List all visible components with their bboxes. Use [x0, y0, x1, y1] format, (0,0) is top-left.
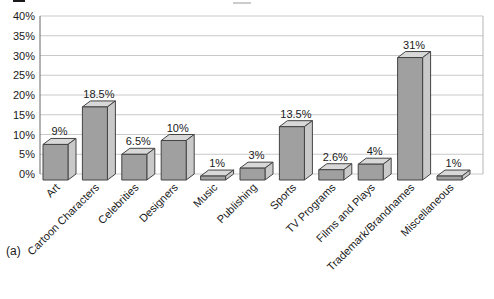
bar-value-label: 2.6%: [323, 151, 348, 163]
bar-side-face: [423, 52, 431, 180]
bar: [279, 127, 304, 180]
panel-label: (a): [6, 244, 21, 258]
x-axis-category-label: Celebrities: [95, 181, 141, 227]
y-axis-tick-label: 10%: [13, 129, 35, 141]
x-axis-category-label: Sports: [267, 181, 298, 212]
bar-chart: 0%5%10%15%20%25%30%35%40%9%Art18.5%Carto…: [0, 0, 494, 299]
y-axis-tick-label: 35%: [13, 30, 35, 42]
bar: [240, 168, 265, 180]
bar: [82, 107, 107, 180]
bar-value-label: 1%: [446, 157, 462, 169]
bar-side-face: [68, 138, 76, 180]
x-axis-category-label: Art: [43, 181, 61, 199]
bar: [358, 164, 383, 180]
bar-value-label: 18.5%: [83, 88, 114, 100]
bar-value-label: 4%: [367, 145, 383, 157]
x-axis-category-label: Music: [191, 181, 220, 210]
bar: [201, 176, 226, 180]
bar-value-label: 31%: [403, 39, 425, 51]
bar-side-face: [107, 101, 115, 180]
x-axis-category-label: Cartoon Characters: [25, 181, 102, 258]
bar: [437, 176, 462, 180]
bar-side-face: [186, 135, 194, 181]
bar: [161, 141, 186, 181]
bar: [319, 170, 344, 180]
y-axis-tick-label: 0%: [19, 168, 35, 180]
bar-value-label: 10%: [167, 122, 189, 134]
bar-side-face: [147, 148, 155, 180]
y-axis-tick-label: 30%: [13, 50, 35, 62]
bar-value-label: 1%: [209, 157, 225, 169]
x-axis-category-label: Publishing: [215, 181, 259, 225]
y-axis-tick-label: 40%: [13, 10, 35, 22]
figure-panel: 0%5%10%15%20%25%30%35%40%9%Art18.5%Carto…: [0, 0, 494, 299]
y-axis-tick-label: 25%: [13, 69, 35, 81]
x-axis-category-label: Designers: [137, 181, 181, 225]
bar-value-label: 13.5%: [280, 108, 311, 120]
bar: [43, 144, 68, 180]
y-axis-tick-label: 15%: [13, 109, 35, 121]
y-axis-tick-label: 5%: [19, 148, 35, 160]
bar: [122, 154, 147, 180]
bar: [398, 58, 423, 180]
bar-value-label: 9%: [52, 125, 68, 137]
bar-side-face: [304, 121, 312, 180]
bar-value-label: 3%: [249, 149, 265, 161]
bar-value-label: 6.5%: [126, 135, 151, 147]
y-axis-tick-label: 20%: [13, 89, 35, 101]
